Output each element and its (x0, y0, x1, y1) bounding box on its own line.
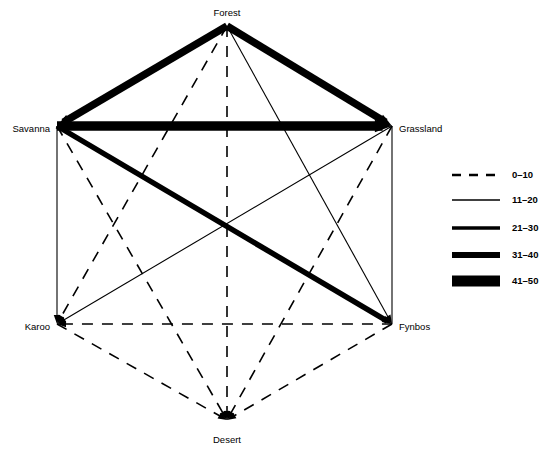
legend-label-11-20: 11–20 (512, 194, 538, 205)
legend-label-0-10: 0–10 (512, 169, 533, 180)
legend-label-21-30: 21–30 (512, 222, 538, 233)
legend-label-31-40: 31–40 (512, 249, 538, 260)
legend-label-41-50: 41–50 (512, 275, 538, 286)
network-diagram: ForestSavannaGrasslandKarooFynbosDesert … (0, 0, 545, 449)
diagram-page: ForestSavannaGrasslandKarooFynbosDesert … (0, 0, 545, 449)
node-label-desert: Desert (213, 434, 241, 445)
diagram-background (0, 0, 545, 449)
node-label-fynbos: Fynbos (399, 321, 430, 332)
node-label-karoo: Karoo (25, 321, 50, 332)
node-label-grassland: Grassland (399, 123, 442, 134)
node-label-savanna: Savanna (12, 123, 50, 134)
node-label-forest: Forest (214, 7, 241, 18)
